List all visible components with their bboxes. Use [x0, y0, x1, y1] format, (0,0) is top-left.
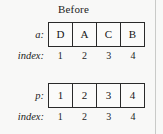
array-p-cell-4: 4 — [121, 84, 144, 107]
array-p-index-3: 3 — [97, 110, 121, 123]
page-margin-rule — [155, 0, 156, 134]
array-a-cell-3: C — [97, 23, 121, 46]
array-a-box: D A C B — [48, 22, 145, 47]
array-a-index-3: 3 — [97, 49, 121, 62]
array-p-index-1: 1 — [48, 110, 72, 123]
array-p-index-4: 4 — [121, 110, 145, 123]
array-a-cell-4: B — [121, 23, 144, 46]
array-p-cell-2: 2 — [73, 84, 97, 107]
array-p-label: p: — [0, 90, 44, 102]
array-p-index-strip: 1 2 3 4 — [48, 110, 145, 123]
array-a-index-label: index: — [0, 50, 44, 62]
array-a-index-4: 4 — [121, 49, 145, 62]
array-p-box: 1 2 3 4 — [48, 83, 145, 108]
array-p-cell-3: 3 — [97, 84, 121, 107]
array-a-cell-1: D — [49, 23, 73, 46]
array-a-cell-2: A — [73, 23, 97, 46]
array-a-index-2: 2 — [72, 49, 96, 62]
array-a-index-1: 1 — [48, 49, 72, 62]
figure-title: Before — [0, 3, 147, 16]
array-a-label: a: — [0, 29, 44, 41]
array-p-index-2: 2 — [72, 110, 96, 123]
before-figure: Before a: D A C B index: 1 2 3 4 p: 1 2 … — [0, 0, 163, 134]
array-a-index-strip: 1 2 3 4 — [48, 49, 145, 62]
array-p-index-label: index: — [0, 111, 44, 123]
array-p-cell-1: 1 — [49, 84, 73, 107]
